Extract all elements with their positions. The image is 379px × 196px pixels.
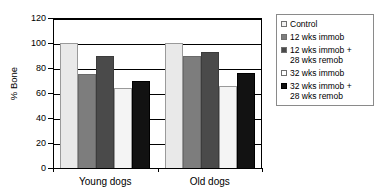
legend-item[interactable]: 12 wks immob [281,32,370,42]
y-axis-title: % Bone [8,49,19,119]
y-axis-tick-label: 60 [22,89,46,98]
legend-item[interactable]: 32 wks immob + 28 wks remob [281,81,370,101]
legend-label: 32 wks immob [290,68,344,78]
legend-label: Control [290,19,317,29]
legend-swatch-icon [281,21,287,27]
bar [165,43,183,168]
legend-swatch-icon [281,70,287,76]
bar [219,86,237,169]
plot-area [53,18,262,168]
legend-label: 32 wks immob + 28 wks remob [290,81,352,101]
legend-label: 12 wks immob + 28 wks remob [290,45,352,65]
chart-legend: Control12 wks immob12 wks immob + 28 wks… [276,14,374,106]
x-axis-category-label: Young dogs [53,176,158,187]
bar-chart-figure: % Bone 020406080100120 Young dogsOld dog… [0,0,379,196]
legend-item[interactable]: Control [281,19,370,29]
x-axis-separator [262,168,263,172]
y-axis-tick-label: 20 [22,139,46,148]
bar [237,73,255,168]
y-axis-tick-label: 80 [22,64,46,73]
x-axis-category-label: Old dogs [158,176,263,187]
legend-swatch-icon [281,34,287,40]
legend-item[interactable]: 12 wks immob + 28 wks remob [281,45,370,65]
bar [78,74,96,168]
bar [60,43,78,168]
bar [183,56,201,169]
bar [201,52,219,168]
legend-item[interactable]: 32 wks immob [281,68,370,78]
x-axis-separator [158,168,159,172]
x-axis-separator [53,168,54,172]
bar [114,88,132,168]
legend-swatch-icon [281,83,287,89]
y-axis-tick-label: 120 [22,14,46,23]
bar [132,81,150,169]
y-axis-tick-label: 40 [22,114,46,123]
bar-series-container [54,19,261,168]
y-axis-tick-label: 100 [22,39,46,48]
y-axis-tick-label: 0 [22,164,46,173]
bar [96,56,114,169]
legend-label: 12 wks immob [290,32,344,42]
legend-swatch-icon [281,47,287,53]
